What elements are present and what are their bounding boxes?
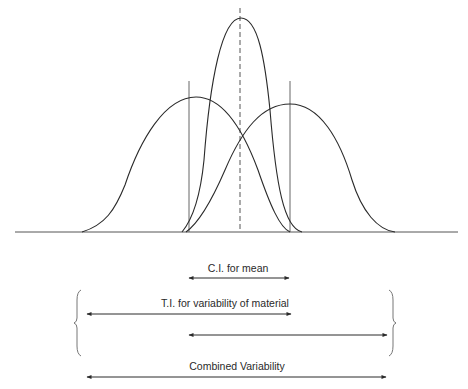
left-brace <box>74 290 81 356</box>
ci-mean-label: C.I. for mean <box>208 262 269 274</box>
diagram-canvas <box>0 0 468 389</box>
mean-distribution-curve <box>182 18 302 232</box>
ti-material-label: T.I. for variability of material <box>161 297 289 309</box>
combined-variability-label: Combined Variability <box>189 360 285 372</box>
right-brace <box>389 290 396 356</box>
